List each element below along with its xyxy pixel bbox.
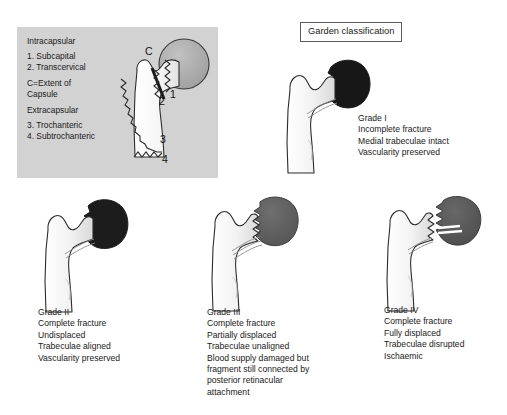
grade-1-line-1: Incomplete fracture [358,124,498,135]
legend-extracapsular-heading: Extracapsular [27,105,119,117]
grade-3-line-6: posterior retinacular [207,375,357,386]
anatomy-reference-panel: Intracapsular 1. Subcapital 2. Transcerv… [17,27,218,178]
proximal-femur-shape [387,211,434,311]
proximal-femur-shape [134,60,179,157]
figure-title: Garden classification [308,26,394,36]
grade-4-line-4: Ischaemic [384,351,504,362]
legend-intracapsular-heading: Intracapsular [27,36,119,48]
grade-3-line-5: fragment still connected by [207,364,357,375]
grade-3-line-4: Blood supply damaged but [207,353,357,364]
grade-2-line-4: Vascularity preserved [38,353,198,364]
grade-3-line-7: attachment [207,387,357,398]
grade-2-panel: Grade II Complete fracture Undisplaced T… [38,194,213,394]
marker-1-label: 1 [170,88,176,100]
anatomy-femur-diagram: C 1 2 3 4 [117,31,217,176]
marker-2-label: 2 [159,95,165,107]
grade-4-panel: Grade IV Complete fracture Fully displac… [378,192,506,382]
grade-1-line-3: Vascularity preserved [358,147,498,158]
legend-item-trochanteric: 3. Trochanteric [27,120,119,131]
marker-3-label: 3 [160,133,166,145]
legend-item-subtrochanteric: 4. Subtrochanteric [27,131,119,142]
grade-3-line-0: Grade III [207,307,357,318]
grade-1-caption: Grade I Incomplete fracture Medial trabe… [358,113,498,159]
grade-3-line-3: Trabeculae unaligned [207,341,357,352]
marker-4-label: 4 [162,153,168,165]
figure-title-box: Garden classification [300,22,402,42]
grade-2-line-1: Complete fracture [38,318,198,329]
grade-3-line-1: Complete fracture [207,318,357,329]
grade-1-panel: Grade I Incomplete fracture Medial trabe… [280,52,500,187]
legend-capsule-note-line1: C=Extent of [27,78,119,89]
proximal-femur-shape [45,216,93,312]
grade-3-line-2: Partially displaced [207,330,357,341]
legend-item-transcervical: 2. Transcervical [27,62,119,73]
grade-4-line-2: Fully displaced [384,328,504,339]
legend-item-subcapital: 1. Subcapital [27,51,119,62]
grade-2-line-2: Undisplaced [38,330,198,341]
proximal-femur-shape [212,212,259,311]
marker-c-label: C [145,45,153,57]
grade-3-femur-diagram [203,192,313,317]
grade-2-line-3: Trabeculae aligned [38,341,198,352]
femoral-head-shape [436,197,481,246]
femoral-head-shape [254,197,298,246]
grade-4-caption: Grade IV Complete fracture Fully displac… [384,305,504,362]
grade-3-caption: Grade III Complete fracture Partially di… [207,307,357,398]
grade-4-line-0: Grade IV [384,305,504,316]
grade-4-femur-diagram [378,192,498,317]
grade-2-line-0: Grade II [38,307,198,318]
grade-2-caption: Grade II Complete fracture Undisplaced T… [38,307,198,364]
grade-3-panel: Grade III Complete fracture Partially di… [203,192,383,407]
grade-1-line-2: Medial trabeculae intact [358,136,498,147]
grade-4-line-3: Trabeculae disrupted [384,339,504,350]
grade-1-line-0: Grade I [358,113,498,124]
legend-capsule-note-line2: Capsule [27,89,119,100]
grade-4-line-1: Complete fracture [384,316,504,327]
garden-classification-figure: Intracapsular 1. Subcapital 2. Transcerv… [0,0,507,415]
grade-2-femur-diagram [38,194,143,319]
anatomy-legend-text: Intracapsular 1. Subcapital 2. Transcerv… [27,36,119,142]
